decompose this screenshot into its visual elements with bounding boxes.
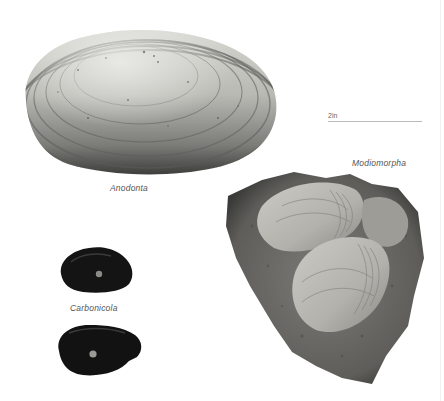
scale-label: 2in — [328, 112, 337, 119]
carbonicola-specimen-bottom-image — [55, 321, 145, 379]
page-edge — [440, 0, 441, 401]
modiomorpha-specimen-image — [222, 166, 428, 388]
carbonicola-label: Carbonicola — [70, 303, 118, 313]
anodonta-label: Anodonta — [110, 183, 148, 193]
carbonicola-specimen-top-image — [57, 244, 137, 296]
anodonta-specimen-image — [18, 22, 282, 178]
scale-bar — [328, 121, 422, 122]
